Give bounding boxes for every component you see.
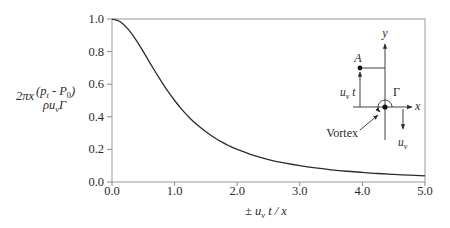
y-label-num-open: (p <box>36 84 46 98</box>
y-label-num-close: ) <box>70 84 75 98</box>
y-tick-label: 1.0 <box>88 12 104 26</box>
inset-circulation-label: Γ <box>393 85 400 99</box>
inset-vortex-diagram: y x A uv t Γ uv Vortex <box>326 26 421 151</box>
x-tick-label: 5.0 <box>417 184 433 198</box>
x-tick-label: 2.0 <box>229 184 245 198</box>
pressure-deficit-chart: 0.01.02.03.04.05.0 0.00.20.40.60.81.0 2π… <box>0 0 450 228</box>
y-label-den-main: ρu <box>42 98 55 112</box>
y-axis-label: 2πx (pt - P0) ρuvΓ <box>16 84 75 114</box>
data-curve <box>112 19 425 176</box>
inset-y-axis-label: y <box>381 26 388 40</box>
inset-point-a-label: A <box>353 51 362 65</box>
y-label-den-end: Γ <box>58 98 67 112</box>
y-tick-label: 0.8 <box>88 45 104 59</box>
y-tick-label: 0.0 <box>88 175 104 189</box>
inset-displacement-t: t <box>349 86 356 98</box>
inset-velocity-sub: v <box>404 142 408 151</box>
x-axis-label: ± uv t / x <box>245 204 287 220</box>
inset-displacement-label: uv t <box>340 86 356 101</box>
inset-point-a-dot <box>358 66 363 71</box>
x-axis-ticks: 0.01.02.03.04.05.0 <box>104 182 433 198</box>
y-tick-label: 0.6 <box>88 77 104 91</box>
y-tick-label: 0.2 <box>88 142 104 156</box>
inset-vortex-label: Vortex <box>326 126 358 140</box>
x-tick-label: 4.0 <box>355 184 371 198</box>
x-tick-label: 1.0 <box>167 184 183 198</box>
x-label-rest: t / x <box>265 204 287 218</box>
inset-vortex-callout-arrow <box>360 115 378 130</box>
inset-velocity-label: uv <box>398 136 408 151</box>
plot-frame <box>112 19 425 182</box>
y-tick-label: 0.4 <box>88 110 104 124</box>
y-label-numerator: (pt - P0) <box>36 84 75 100</box>
x-tick-label: 0.0 <box>104 184 120 198</box>
y-label-denominator: ρuvΓ <box>42 98 67 114</box>
y-label-prefix: 2πx <box>16 89 35 103</box>
x-tick-label: 3.0 <box>292 184 308 198</box>
inset-x-axis-label: x <box>414 99 421 113</box>
x-label-pm: ± <box>245 204 255 218</box>
y-axis-ticks: 0.00.20.40.60.81.0 <box>88 12 112 189</box>
inset-vortex-dot <box>382 104 387 109</box>
y-label-num-mid: - P <box>49 84 67 98</box>
